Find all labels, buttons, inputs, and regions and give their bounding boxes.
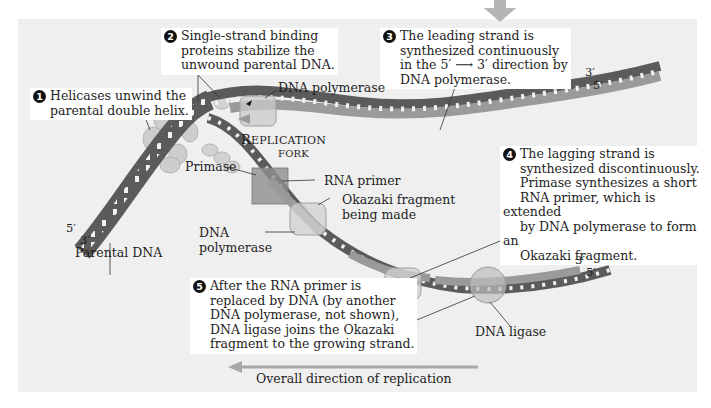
step-3-badge: 3 <box>383 30 396 43</box>
step-2-callout: 2Single-strand binding proteins stabiliz… <box>161 28 338 75</box>
step-4-callout: 4The lagging strand is synthesized disco… <box>500 146 711 265</box>
left-3prime-label: 3′ <box>80 233 90 247</box>
overall-direction-label: Overall direction of replication <box>256 372 452 387</box>
step-2-badge: 2 <box>164 30 177 43</box>
dna-ligase-label: DNA ligase <box>475 325 546 340</box>
lagging-3prime-label: 3′ <box>575 253 585 267</box>
parental-dna-label: Parental DNA <box>75 246 162 261</box>
dna-ligase-icon <box>470 267 506 303</box>
step-5-badge: 5 <box>193 280 206 293</box>
step-4-badge: 4 <box>503 148 516 161</box>
dna-polymerase-top-label: DNA polymerase <box>278 81 385 96</box>
leading-3prime-label: 3′ <box>585 65 595 79</box>
rna-primer-label: RNA primer <box>324 174 401 189</box>
dna-polymerase-lower-label: DNA polymerase <box>199 226 272 255</box>
leading-5prime-label: 5′ <box>593 78 603 92</box>
okazaki-fragment-label: Okazaki fragment being made <box>342 193 455 222</box>
lagging-5prime-label: 5′ <box>586 265 596 279</box>
step-1-badge: 1 <box>33 90 46 103</box>
replication-fork-label: REPLICATION FORK <box>241 133 326 160</box>
step-1-callout: 1Helicases unwind the parental double he… <box>30 88 192 120</box>
primase-label: Primase <box>185 160 237 175</box>
left-5prime-label: 5′ <box>66 221 76 235</box>
top-direction-arrow-icon <box>484 0 516 22</box>
step-3-callout: 3The leading strand is synthesized conti… <box>380 28 571 89</box>
step-5-callout: 5After the RNA primer is replaced by DNA… <box>190 278 417 354</box>
lagging-dna-polymerase-icon <box>290 203 326 235</box>
